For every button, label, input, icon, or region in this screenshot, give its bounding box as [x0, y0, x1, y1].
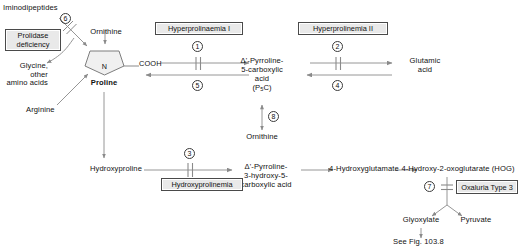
label-proline-cooh: COOH: [139, 60, 162, 69]
p5c-abbrev-pre: (P: [252, 83, 260, 92]
pathway-edges: [47, 18, 462, 238]
label-4-hydroxyglutamate: 4-Hydroxyglutamate: [329, 165, 399, 174]
enzyme-step-3[interactable]: 3: [184, 148, 195, 159]
label-proline-nitrogen: N: [99, 63, 110, 72]
label-p5c-abbrev: (P5C): [222, 84, 302, 94]
label-glyoxylate: Glyoxylate: [392, 216, 450, 225]
label-hog: 4-Hydroxy-2-oxoglutarate (HOG): [395, 165, 521, 174]
edge-hog-to-pyruvate: [447, 205, 462, 216]
label-p5c-line3: acid: [222, 75, 302, 84]
enzyme-step-5[interactable]: 5: [192, 80, 203, 91]
label-arginine: Arginine: [26, 106, 55, 115]
pathway-lines-svg: [0, 0, 521, 247]
label-glutamic-acid: Glutamic acid: [396, 57, 454, 74]
enzyme-step-1[interactable]: 1: [192, 41, 203, 52]
disorder-box-hyperprolinemia-2[interactable]: Hyperprolinemia II: [298, 22, 388, 35]
enzyme-step-8[interactable]: 8: [268, 111, 279, 122]
disorder-box-prolidase-deficiency[interactable]: Prolidase deficiency: [5, 29, 61, 51]
disorder-box-hydroxyprolinemia[interactable]: Hydroxyprolinemia: [161, 178, 243, 191]
disorder-box-hyperprolinaemia-1[interactable]: Hyperprolinaemia I: [155, 22, 243, 35]
disorder-box-oxaluria-type-3[interactable]: Oxaluria Type 3: [456, 180, 518, 194]
pathway-diagram: Iminodipeptides Ornithine Glycine, other…: [0, 0, 521, 247]
p5c-abbrev-post: C): [263, 83, 271, 92]
label-proline: Proline: [74, 79, 134, 88]
label-ornithine-mid: Ornithine: [232, 133, 292, 142]
label-see-figure-reference: See Fig. 103.8: [393, 238, 444, 247]
label-iminodipeptides: Iminodipeptides: [3, 4, 58, 13]
label-ornithine-top: Ornithine: [76, 28, 136, 37]
enzyme-step-2[interactable]: 2: [332, 41, 343, 52]
label-pyruvate: Pyruvate: [452, 216, 500, 225]
enzyme-step-7[interactable]: 7: [424, 181, 435, 192]
label-hydroxyproline: Hydroxyproline: [60, 165, 142, 174]
enzyme-step-6[interactable]: 6: [60, 13, 71, 24]
label-glycine-other-amino-acids: Glycine, other amino acids: [0, 62, 48, 88]
enzyme-step-4[interactable]: 4: [332, 80, 343, 91]
